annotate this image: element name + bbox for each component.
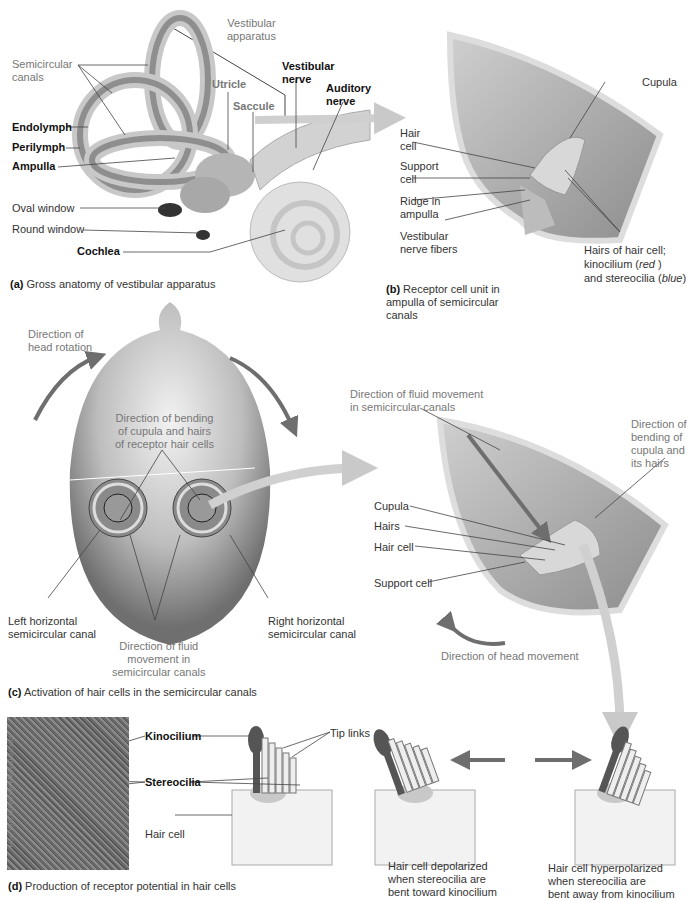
label-kinocilium: Kinocilium (145, 730, 201, 743)
label-hair-cell-c: Hair cell (374, 541, 414, 554)
label-cupula-c: Cupula (374, 500, 409, 513)
photo-credit: New York University Medical School (7, 722, 14, 862)
label-hair-cell-hyperpolarized: Hair cell hyperpolarized when stereocili… (548, 862, 675, 901)
label-vestibular-apparatus: Vestibular apparatus (227, 17, 276, 43)
label-vestibular-nerve-fibers: Vestibular nerve fibers (400, 230, 457, 256)
label-head-movement: Direction of head movement (441, 650, 579, 663)
label-hairs-c: Hairs (374, 520, 400, 533)
ampulla-illustration (413, 35, 660, 241)
label-ampulla: Ampulla (12, 160, 55, 173)
label-tip-links: Tip links (330, 727, 370, 740)
label-bending-detail: Direction of bending of cupula and its h… (631, 418, 687, 470)
label-fluid-movement-detail: Direction of fluid movement in semicircu… (350, 388, 483, 414)
label-semicircular-canals: Semicircular canals (12, 58, 73, 84)
label-hair-cell-b: Hair cell (400, 127, 420, 153)
label-fluid-movement: Direction of fluid movement in semicircu… (112, 640, 206, 679)
label-support-cell-b: Support cell (400, 160, 439, 186)
label-stereocilia: Stereocilia (145, 776, 201, 789)
label-head-rotation: Direction of head rotation (28, 328, 92, 354)
label-round-window: Round window (12, 223, 84, 236)
label-ridge-ampulla: Ridge in ampulla (400, 195, 440, 221)
label-utricle: Utricle (212, 78, 246, 91)
caption-d: (d) Production of receptor potential in … (8, 880, 236, 893)
label-saccule: Saccule (233, 100, 275, 113)
caption-b: (b) Receptor cell unit in ampulla of sem… (386, 283, 500, 322)
label-hairs-of-hair-cell: Hairs of hair cell; kinocilium (red ) an… (584, 243, 686, 285)
label-support-cell-c: Support cell (374, 577, 432, 590)
label-cupula-b: Cupula (642, 76, 677, 89)
inner-ear-illustration (58, 18, 390, 282)
label-endolymph: Endolymph (12, 121, 72, 134)
label-cochlea: Cochlea (77, 245, 120, 258)
caption-a: (a) Gross anatomy of vestibular apparatu… (10, 278, 215, 291)
right-canal-ring (173, 479, 231, 537)
label-bending-cupula-hairs: Direction of bending of cupula and hairs… (115, 412, 214, 451)
sem-micrograph-hair-bundle (7, 717, 129, 870)
label-hair-cell-d: Hair cell (145, 828, 185, 841)
cupula-bending-illustration (405, 408, 665, 730)
left-canal-ring (89, 479, 147, 537)
label-auditory-nerve: Auditory nerve (326, 82, 371, 108)
caption-c: (c) Activation of hair cells in the semi… (8, 686, 257, 699)
label-left-horizontal-canal: Left horizontal semicircular canal (8, 615, 96, 641)
label-hair-cell-depolarized: Hair cell depolarized when stereocilia a… (388, 860, 497, 899)
label-oval-window: Oval window (12, 202, 74, 215)
label-right-horizontal-canal: Right horizontal semicircular canal (268, 615, 356, 641)
label-perilymph: Perilymph (12, 141, 65, 154)
